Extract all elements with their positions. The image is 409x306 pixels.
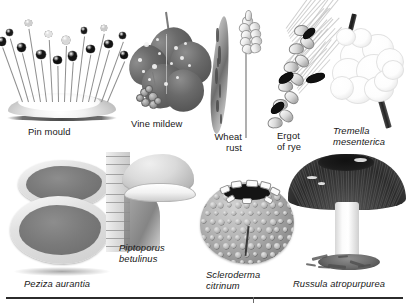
wart-46	[218, 219, 224, 225]
sporangium-4	[36, 50, 46, 60]
wart-52	[270, 219, 276, 225]
mildew-spot-5	[152, 64, 157, 69]
wart-100	[214, 260, 219, 264]
wart-45	[210, 219, 215, 224]
rye-spikelet-2	[288, 43, 304, 55]
wart-88	[201, 252, 206, 257]
caption-peziza-aurantia: Peziza aurantia	[24, 279, 90, 290]
wart-97	[278, 252, 283, 257]
wart-92	[235, 252, 241, 258]
figure-pin-mould	[6, 14, 118, 124]
wart-12	[214, 194, 219, 199]
caption-piptoporus-betulinus: Piptoporus betulinus	[119, 243, 165, 264]
figure-russula-atropurpurea	[288, 150, 408, 274]
mildew-spot-3	[184, 42, 187, 45]
wart-11	[205, 194, 210, 199]
russula-stem	[335, 202, 359, 260]
caption-tremella-mesenterica: Tremella mesenterica	[333, 126, 385, 147]
wart-83	[257, 243, 262, 248]
sporangium-10	[86, 45, 94, 53]
wart-48	[235, 219, 240, 224]
wart-62	[266, 227, 272, 233]
figure-vine-mildew	[118, 12, 218, 120]
sporangium-2	[17, 43, 26, 52]
wart-51	[261, 219, 266, 224]
ground-shadow	[14, 267, 110, 276]
wart-53	[278, 219, 283, 224]
rust-lesion-0	[216, 28, 219, 42]
wart-84	[266, 243, 271, 248]
cup-lower	[10, 196, 110, 264]
caption-pin-mould: Pin mould	[28, 127, 71, 138]
caption-russula-atropurpurea: Russula atropurpurea	[293, 279, 385, 290]
wart-26	[235, 202, 241, 208]
wart-36	[231, 211, 236, 216]
wart-38	[248, 211, 253, 216]
figure-piptoporus-betulinus	[106, 150, 202, 254]
wart-22	[201, 202, 206, 207]
wart-67	[210, 235, 215, 240]
caption-wheat-rust: Wheat rust	[196, 132, 242, 153]
sporangium-12	[104, 40, 113, 49]
grape-berry-4	[136, 94, 144, 102]
wart-90	[218, 252, 223, 257]
wart-49	[244, 219, 250, 225]
wart-59	[240, 227, 246, 233]
caption-scleroderma-citrinum: Scleroderma citrinum	[206, 270, 260, 291]
sporangium-8	[68, 51, 77, 60]
wart-74	[270, 235, 275, 240]
rust-lesion-2	[215, 68, 218, 84]
sporangiophore-stalk-12	[94, 50, 110, 102]
wart-41	[274, 211, 279, 216]
sporangium-7	[62, 36, 69, 43]
jelly-lobe-10	[336, 28, 356, 46]
wart-79	[223, 243, 229, 249]
wart-34	[214, 211, 219, 216]
wart-96	[270, 252, 275, 257]
wart-80	[231, 243, 236, 248]
wart-82	[248, 243, 254, 249]
wart-1	[210, 186, 215, 191]
wart-0	[201, 186, 206, 191]
wart-20	[283, 194, 288, 199]
wart-47	[227, 219, 232, 224]
wart-42	[283, 211, 288, 216]
wart-44	[201, 219, 206, 224]
sporangiophore-stalk-6	[57, 66, 59, 102]
figure-tremella-mesenterica	[330, 14, 406, 130]
mildew-spot-4	[138, 58, 142, 62]
figure-scleroderma-citrinum	[198, 176, 298, 268]
wart-55	[205, 227, 210, 232]
wart-35	[223, 211, 228, 216]
wart-40	[266, 211, 271, 216]
fungi-plate: Pin mould Vine mildew Wheat rust Ergot o…	[0, 0, 409, 306]
jelly-lobe-7	[330, 76, 354, 100]
wart-91	[227, 252, 232, 257]
sporangium-0	[0, 37, 6, 45]
wart-73	[261, 235, 266, 240]
mildew-spot-9	[164, 82, 168, 86]
wart-94	[253, 252, 258, 257]
litter-piece-6	[306, 263, 316, 267]
wart-50	[253, 219, 258, 224]
wart-72	[253, 235, 258, 240]
sporangium-5	[45, 31, 52, 38]
wart-68	[218, 235, 223, 240]
wart-70	[235, 235, 240, 240]
bracket-pore-rim	[124, 183, 196, 202]
wart-103	[240, 260, 245, 264]
wart-75	[278, 235, 283, 240]
wart-61	[257, 227, 262, 232]
grape-berry-5	[145, 85, 153, 93]
wart-77	[205, 243, 210, 248]
wart-64	[283, 227, 288, 232]
wart-28	[253, 202, 258, 207]
wart-58	[231, 227, 236, 232]
cup-lower-interior	[19, 205, 101, 255]
rye-spikelet-10	[267, 117, 283, 129]
wart-104	[248, 260, 253, 264]
cap-highlight-b	[307, 176, 317, 179]
wart-33	[205, 211, 210, 216]
wart-24	[218, 202, 223, 207]
wart-66	[201, 235, 206, 240]
